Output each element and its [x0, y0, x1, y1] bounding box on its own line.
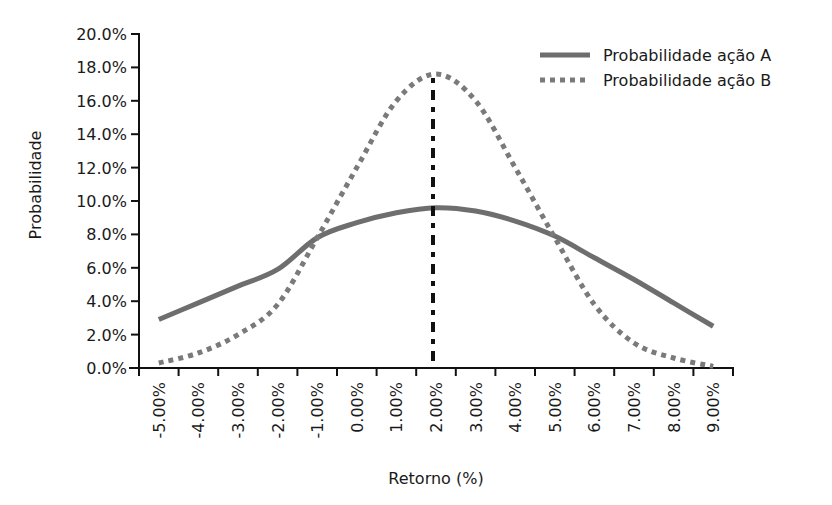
y-axis-ticks: 0.0%2.0%4.0%6.0%8.0%10.0%12.0%14.0%16.0%…	[76, 25, 139, 378]
y-tick-label: 20.0%	[76, 25, 127, 44]
y-tick-label: 18.0%	[76, 58, 127, 77]
series-b-line	[159, 74, 713, 366]
y-tick-label: 2.0%	[86, 326, 127, 345]
y-tick-label: 14.0%	[76, 125, 127, 144]
x-tick-label: -4.00%	[189, 382, 208, 439]
x-tick-label: 2.00%	[427, 382, 446, 433]
x-tick-label: 5.00%	[546, 382, 565, 433]
y-tick-label: 4.0%	[86, 292, 127, 311]
x-tick-label: 8.00%	[665, 382, 684, 433]
x-tick-label: -3.00%	[229, 382, 248, 439]
legend-label-b: Probabilidade ação B	[603, 71, 771, 90]
x-tick-label: 1.00%	[387, 382, 406, 433]
y-tick-label: 10.0%	[76, 192, 127, 211]
x-tick-label: 9.00%	[704, 382, 723, 433]
x-tick-label: -5.00%	[150, 382, 169, 439]
x-tick-label: 7.00%	[625, 382, 644, 433]
series-a-line	[159, 208, 713, 327]
y-tick-label: 12.0%	[76, 159, 127, 178]
legend: Probabilidade ação A Probabilidade ação …	[540, 46, 771, 90]
plot-area	[159, 74, 713, 366]
x-tick-label: 6.00%	[585, 382, 604, 433]
y-tick-label: 0.0%	[86, 359, 127, 378]
x-tick-label: -1.00%	[308, 382, 327, 439]
x-tick-label: 0.00%	[348, 382, 367, 433]
x-tick-label: 4.00%	[506, 382, 525, 433]
x-tick-label: -2.00%	[269, 382, 288, 439]
y-tick-label: 8.0%	[86, 225, 127, 244]
legend-item-a: Probabilidade ação A	[540, 46, 771, 65]
y-tick-label: 16.0%	[76, 92, 127, 111]
x-tick-label: 3.00%	[467, 382, 486, 433]
x-axis-title: Retorno (%)	[388, 469, 483, 488]
y-tick-label: 6.0%	[86, 259, 127, 278]
y-axis-title: Probabilidade	[26, 131, 45, 240]
legend-label-a: Probabilidade ação A	[603, 46, 771, 65]
chart: 0.0%2.0%4.0%6.0%8.0%10.0%12.0%14.0%16.0%…	[0, 0, 832, 505]
x-axis-ticks: -5.00%-4.00%-3.00%-2.00%-1.00%0.00%1.00%…	[139, 368, 733, 439]
legend-item-b: Probabilidade ação B	[540, 71, 771, 90]
